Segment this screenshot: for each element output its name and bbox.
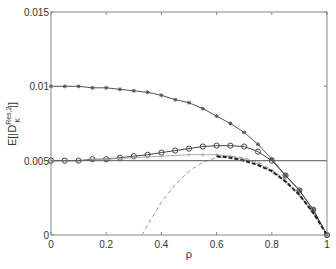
asterisk-marker: [228, 122, 232, 126]
asterisk-marker: [187, 101, 191, 105]
asterisk-marker: [118, 87, 122, 91]
x-tick-label: 0: [48, 239, 54, 250]
x-tick-label: 0.4: [154, 239, 168, 250]
plot-area-border: [51, 12, 327, 235]
asterisk-marker: [215, 114, 219, 118]
line-chart: 00.20.40.60.8100.0050.010.015 ρ E[|DRes,…: [0, 0, 336, 269]
x-tick-label: 0.6: [210, 239, 224, 250]
asterisk-marker: [242, 130, 246, 134]
plus-series: [51, 155, 327, 235]
axis-ticks: 00.20.40.60.8100.0050.010.015: [24, 7, 330, 250]
y-label-base: E[|D: [6, 125, 18, 146]
y-tick-label: 0: [43, 230, 49, 241]
y-tick-label: 0.005: [24, 156, 49, 167]
asterisk-marker: [132, 89, 136, 93]
x-axis-label: ρ: [186, 248, 192, 260]
y-label-tail: |]: [6, 102, 18, 108]
asterisk-marker: [63, 84, 67, 88]
asterisk-marker: [201, 107, 205, 111]
series-layer: [48, 84, 329, 237]
plot-frame: [51, 12, 327, 235]
asterisk-marker: [90, 86, 94, 90]
y-tick-label: 0.01: [30, 81, 50, 92]
circle-series: [51, 146, 327, 235]
y-label-sub: K: [14, 118, 21, 123]
plus-marker: [201, 153, 205, 157]
asterisk-marker: [146, 90, 150, 94]
x-tick-label: 0.8: [265, 239, 279, 250]
asterisk-marker: [159, 93, 163, 97]
asterisk-marker: [173, 98, 177, 102]
y-axis-label: E[|DRes,2K|]: [5, 102, 21, 146]
y-label-sup: Res,2: [5, 106, 12, 124]
asterisk-marker: [256, 142, 260, 146]
asterisk-marker: [77, 84, 81, 88]
y-tick-label: 0.015: [24, 7, 49, 18]
plus-marker: [187, 153, 191, 157]
svg-text:E[|DRes,2K|]: E[|DRes,2K|]: [5, 102, 21, 146]
black-dashed-series: [217, 156, 327, 235]
x-tick-label: 0.2: [99, 239, 113, 250]
x-tick-label: 1: [324, 239, 330, 250]
asterisk-marker: [104, 86, 108, 90]
